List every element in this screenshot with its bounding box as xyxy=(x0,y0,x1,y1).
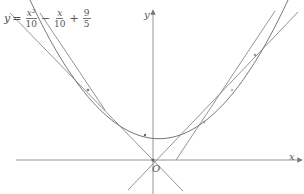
fraction-term2: x 10 xyxy=(54,8,65,29)
term1-numerator: x² xyxy=(26,8,37,19)
x-axis-label: x xyxy=(289,151,295,162)
origin-label: O xyxy=(152,163,160,174)
y-axis-label: y xyxy=(144,9,150,20)
equation-equals: = xyxy=(12,12,21,25)
intersection-point xyxy=(254,54,257,57)
origin-point xyxy=(151,158,154,161)
term2-denominator: 10 xyxy=(54,19,65,29)
point-on-curve-2 xyxy=(144,134,146,136)
equation-op2: + xyxy=(70,12,79,25)
tangent-point-left xyxy=(87,89,90,92)
tangent-point-right xyxy=(203,121,206,124)
equation-lhs: y xyxy=(4,12,10,25)
term3-denominator: 5 xyxy=(84,19,90,29)
steep-line-right xyxy=(176,11,275,160)
term2-numerator: x xyxy=(56,8,63,19)
point-on-curve xyxy=(231,89,234,92)
fraction-term3: 9 5 xyxy=(83,8,91,29)
fraction-term1: x² 10 xyxy=(25,8,36,29)
term3-numerator: 9 xyxy=(83,8,91,19)
parabola-equation: y = x² 10 − x 10 + 9 5 xyxy=(4,8,93,29)
equation-op1: − xyxy=(41,12,50,25)
term1-denominator: 10 xyxy=(25,19,36,29)
